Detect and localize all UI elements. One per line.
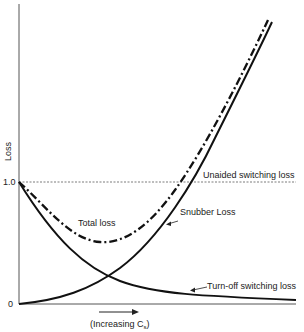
y-tick-1: 1.0 bbox=[3, 177, 16, 187]
snubber-loss-curve bbox=[19, 22, 272, 304]
turnoff-label: Turn-off switching loss bbox=[207, 281, 297, 291]
loss-chart: Loss 1.0 0 Total loss Unaided switching … bbox=[0, 0, 304, 332]
snubber-arrow bbox=[166, 221, 178, 226]
unaided-label: Unaided switching loss bbox=[203, 170, 295, 180]
increasing-arrow bbox=[99, 309, 139, 315]
y-axis-label: Loss bbox=[3, 141, 13, 161]
y-tick-0: 0 bbox=[8, 299, 13, 309]
x-axis-label: (Increasing Cs) bbox=[90, 319, 150, 330]
total-loss-label: Total loss bbox=[78, 218, 116, 228]
snubber-label: Snubber Loss bbox=[180, 207, 236, 217]
turnoff-arrow bbox=[190, 287, 207, 293]
